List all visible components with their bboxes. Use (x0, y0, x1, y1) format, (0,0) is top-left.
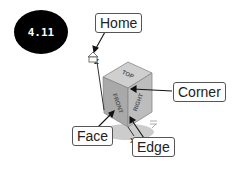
corner-callout: Corner (173, 82, 226, 102)
home-icon[interactable] (88, 52, 98, 62)
edge-callout: Edge (132, 137, 175, 157)
home-callout: Home (95, 13, 142, 33)
viewcube-menu-icon[interactable] (150, 121, 157, 128)
face-callout: Face (72, 126, 113, 146)
